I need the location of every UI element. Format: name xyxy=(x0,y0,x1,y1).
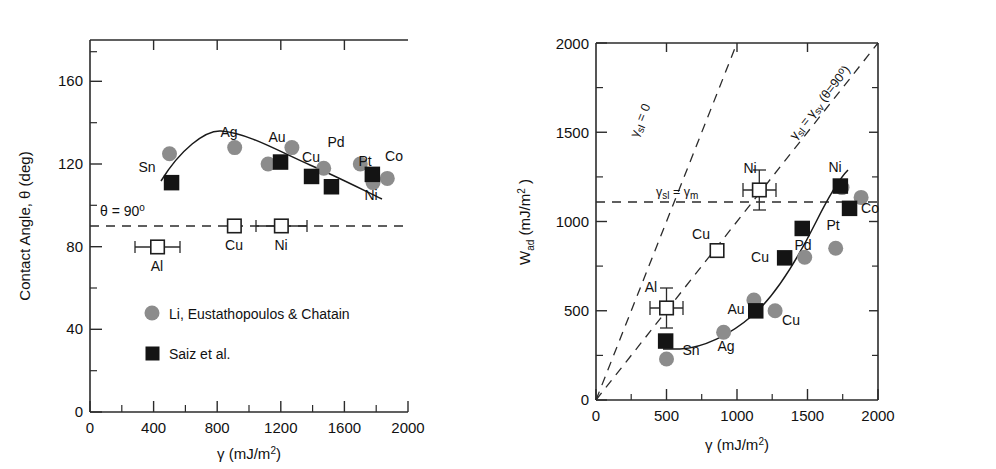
svg-text:γsl = γm: γsl = γm xyxy=(656,185,698,201)
left-ytick-0: 0 xyxy=(75,403,83,420)
right-xtick-1500: 1500 xyxy=(791,407,824,424)
left-reference-label: θ = 90o xyxy=(100,202,145,219)
right-xtick-500: 500 xyxy=(654,407,679,424)
right-ytitle-units: (mJ/m xyxy=(516,194,533,240)
left-x-ticklabels: 0 400 800 1200 1600 2000 xyxy=(86,419,425,436)
left-xtitle-post: ) xyxy=(276,445,281,462)
right-open-square-Al: Al xyxy=(645,279,683,328)
right-label-Ag: Ag xyxy=(717,338,734,354)
left-label-Pd: Pd xyxy=(327,134,344,150)
right-label-Sn: Sn xyxy=(682,342,699,358)
left-label-Au: Au xyxy=(268,129,285,145)
left-label-Pt: Pt xyxy=(358,153,371,169)
annot2-sub: sl xyxy=(662,190,669,201)
right-xtick-2000: 2000 xyxy=(861,407,894,424)
right-label-Cu-li: Cu xyxy=(782,312,800,328)
right-saiz-point-Co xyxy=(842,201,858,217)
right-annot-gamma-sl-eq-m: γsl = γm xyxy=(656,185,698,201)
left-panel-chart: 0 40 80 120 160 0 400 xyxy=(0,0,498,469)
svg-text:γsl = γsv (θ=90o): γsl = γsv (θ=90o) xyxy=(785,62,854,144)
right-y-ticklabels: 0 500 1000 1500 2000 xyxy=(556,35,589,408)
left-xtick-2000: 2000 xyxy=(391,419,424,436)
right-ytitle-sub: ad xyxy=(525,240,536,251)
left-xtick-1600: 1600 xyxy=(328,419,361,436)
annot0-rest: = 0 xyxy=(632,102,653,127)
left-xtick-1200: 1200 xyxy=(264,419,297,436)
right-open-square-Cu: Cu xyxy=(692,226,724,257)
left-li-point-Sn xyxy=(162,146,177,161)
right-saiz-point-Pd xyxy=(795,221,811,237)
right-ytick-0: 0 xyxy=(581,391,589,408)
left-ytick-40: 40 xyxy=(66,320,83,337)
right-label-Cu-saiz: Cu xyxy=(751,249,769,265)
right-series-li-points xyxy=(659,180,869,366)
right-xtick-1000: 1000 xyxy=(720,407,753,424)
left-xtick-800: 800 xyxy=(205,419,230,436)
left-li-point-Ag xyxy=(227,140,242,155)
right-saiz-point-Au xyxy=(748,303,764,319)
left-label-Ni: Ni xyxy=(364,187,377,203)
left-ref-deg: o xyxy=(139,202,145,213)
right-annot-gamma-sl-eq-sv: γsl = γsv (θ=90o) xyxy=(785,62,854,144)
left-label-open-Ni: Ni xyxy=(274,237,287,253)
left-x-axis-title: γ (mJ/m2) xyxy=(217,445,281,462)
legend-marker-square xyxy=(146,347,160,361)
right-panel-chart: 0 500 1000 1500 2000 0 500 1000 1500 xyxy=(498,0,996,469)
left-saiz-point-Pd xyxy=(324,179,340,195)
right-li-point-Sn xyxy=(659,352,674,367)
right-li-point-Cu xyxy=(768,303,783,318)
left-open-square-Cu: Cu xyxy=(225,219,243,253)
right-ytitle-post: ) xyxy=(516,179,533,188)
legend-marker-circle xyxy=(145,306,160,321)
right-label-Co: Co xyxy=(861,200,879,216)
right-saiz-point-Ni xyxy=(833,178,849,194)
left-y-ticks xyxy=(90,52,102,412)
left-legend: Li, Eustathopoulos & Chatain Saiz et al. xyxy=(145,306,350,363)
annot2-sub2: m xyxy=(690,190,698,201)
left-li-point-Co xyxy=(380,171,395,186)
right-x-ticklabels: 0 500 1000 1500 2000 xyxy=(592,407,895,424)
right-xtitle-units: (mJ/m xyxy=(713,436,759,453)
right-ytick-1500: 1500 xyxy=(556,124,589,141)
left-ytick-80: 80 xyxy=(66,238,83,255)
right-ytick-500: 500 xyxy=(564,302,589,319)
left-xtick-400: 400 xyxy=(141,419,166,436)
svg-text:γ (mJ/m2): γ (mJ/m2) xyxy=(217,445,281,462)
right-label-Au: Au xyxy=(727,301,744,317)
right-annot-gamma-sl-zero: γsl = 0 xyxy=(627,102,655,140)
right-label-Al: Al xyxy=(645,279,657,295)
right-xtitle-post: ) xyxy=(764,436,769,453)
left-xtitle-units: (mJ/m xyxy=(225,445,271,462)
figure-root: 0 40 80 120 160 0 400 xyxy=(0,0,996,469)
left-label-Co: Co xyxy=(385,148,403,164)
right-xtick-0: 0 xyxy=(592,407,600,424)
left-x-ticks xyxy=(90,40,408,412)
left-ref-theta: θ xyxy=(100,203,108,219)
left-y-ticklabels: 0 40 80 120 160 xyxy=(58,72,83,420)
left-ytick-120: 120 xyxy=(58,155,83,172)
right-ytick-1000: 1000 xyxy=(556,213,589,230)
right-label-Ni: Ni xyxy=(828,159,841,175)
left-axis-frame xyxy=(90,40,408,412)
left-label-Cu: Cu xyxy=(302,149,320,165)
svg-text:γsl = 0: γsl = 0 xyxy=(627,102,655,140)
left-ytick-160: 160 xyxy=(58,72,83,89)
right-ytitle-w: W xyxy=(516,250,533,265)
left-saiz-point-Sn xyxy=(164,175,180,191)
left-label-Al: Al xyxy=(151,258,163,274)
right-li-point-Pt xyxy=(828,241,843,256)
right-saiz-point-Cu xyxy=(777,250,793,266)
right-ytick-2000: 2000 xyxy=(556,35,589,52)
left-label-open-Cu: Cu xyxy=(225,237,243,253)
right-saiz-point-Sn xyxy=(658,333,674,349)
legend-label-saiz: Saiz et al. xyxy=(169,346,230,362)
svg-text:θ = 90o: θ = 90o xyxy=(100,202,145,219)
left-saiz-point-Cu xyxy=(304,169,320,185)
right-x-axis-title: γ (mJ/m2) xyxy=(705,436,769,453)
left-saiz-point-Au xyxy=(273,154,289,170)
svg-text:Wad (mJ/m2 ): Wad (mJ/m2 ) xyxy=(516,179,536,265)
left-label-Ag: Ag xyxy=(220,124,237,140)
left-open-square-Al: Al xyxy=(135,240,180,274)
left-label-Sn: Sn xyxy=(138,159,155,175)
right-y-axis-title: Wad (mJ/m2 ) xyxy=(516,179,536,265)
